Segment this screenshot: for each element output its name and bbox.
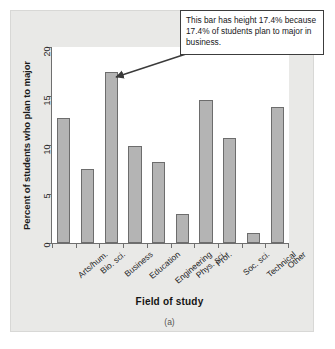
x-axis-tick: [76, 243, 77, 248]
bar-soc-sci: [223, 138, 236, 243]
x-axis-tick: [265, 243, 266, 248]
bar-technical: [247, 233, 260, 243]
x-axis-title: Field of study: [51, 296, 288, 307]
y-axis-tick-label: 20: [43, 47, 52, 57]
bar-other: [271, 107, 284, 243]
figure-container: Percent of students who plan to major 05…: [0, 0, 335, 349]
bar-engineering: [152, 162, 165, 243]
plot-area: 05101520Arts/hum.Bio. sci.BusinessEducat…: [51, 47, 289, 244]
x-axis-tick: [194, 243, 195, 248]
subfigure-caption: (a): [51, 317, 288, 327]
x-axis-tick: [123, 243, 124, 248]
bar-education: [128, 146, 141, 243]
x-axis-tick: [147, 243, 148, 248]
y-axis-tick-label: 5: [43, 194, 52, 199]
bar-business: [105, 72, 118, 243]
callout-annotation-text: This bar has height 17.4% because 17.4% …: [186, 15, 316, 47]
y-axis-tick-label: 0: [43, 243, 52, 248]
x-axis-tick: [218, 243, 219, 248]
x-axis-tick: [171, 243, 172, 248]
bar-phys-sci: [176, 214, 189, 243]
x-axis-tick: [99, 243, 100, 248]
bar-bio-sci: [81, 169, 94, 243]
x-axis-tick: [52, 243, 53, 248]
y-axis-tick-label: 10: [43, 145, 52, 155]
x-axis-tick: [242, 243, 243, 248]
bar-prof: [199, 100, 212, 243]
callout-annotation-box: This bar has height 17.4% because 17.4% …: [180, 10, 324, 55]
bar-arts-hum: [57, 118, 70, 243]
y-axis-tick-label: 15: [43, 96, 52, 106]
x-axis-tick: [288, 243, 289, 248]
y-axis-title: Percent of students who plan to major: [19, 47, 33, 243]
y-axis-title-text: Percent of students who plan to major: [21, 61, 32, 230]
